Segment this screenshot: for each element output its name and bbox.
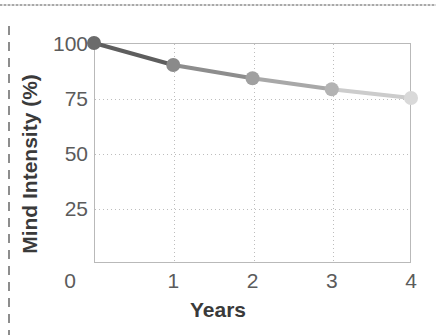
chart-figure: 100755025 01234 Years Mind Intensity (%)	[0, 0, 436, 335]
y-axis-tick-labels: 100755025	[36, 0, 88, 335]
data-line-segment	[94, 43, 173, 65]
data-line-segment	[332, 89, 411, 98]
x-tick-label: 1	[167, 270, 179, 291]
y-axis-title: Mind Intensity (%)	[18, 64, 42, 264]
x-tick-label: 4	[405, 270, 417, 291]
y-tick-label: 100	[53, 33, 88, 54]
y-tick-label: 50	[65, 143, 88, 164]
data-line-segment	[173, 65, 252, 78]
x-tick-label: 2	[247, 270, 259, 291]
y-tick-label: 25	[65, 198, 88, 219]
data-point-marker	[166, 58, 180, 72]
x-tick-label: 0	[64, 270, 76, 291]
data-point-marker	[404, 91, 418, 105]
data-point-marker	[246, 71, 260, 85]
data-point-marker	[87, 36, 101, 50]
y-tick-label: 75	[65, 88, 88, 109]
x-axis-title: Years	[0, 298, 436, 322]
data-line-segment	[253, 78, 332, 89]
data-point-marker	[325, 82, 339, 96]
x-tick-label: 3	[326, 270, 338, 291]
